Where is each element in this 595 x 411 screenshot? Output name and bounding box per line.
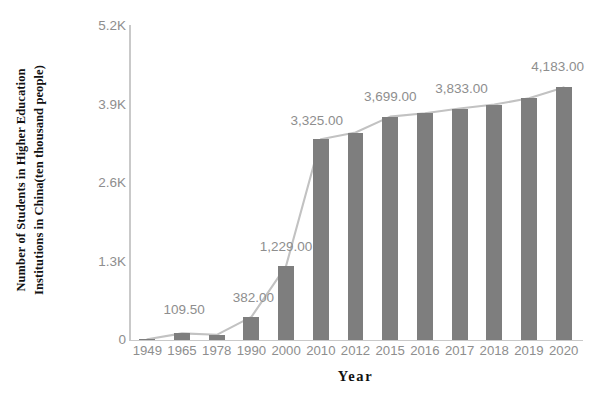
bar-2000 [278, 266, 294, 340]
x-tick-2000: 2000 [271, 344, 300, 357]
bar-1978 [209, 335, 225, 340]
y-axis-title-line-1: Number of Students in Higher Education [14, 68, 29, 291]
y-tick-0: 0 [80, 333, 126, 347]
bar-2015 [382, 117, 398, 340]
bar-1990 [243, 317, 259, 340]
bar-2016 [417, 113, 433, 340]
x-axis-line [130, 340, 583, 341]
data-label-2015: 3,699.00 [364, 90, 417, 104]
x-tick-2017: 2017 [445, 344, 474, 357]
x-tick-2019: 2019 [514, 344, 543, 357]
x-tick-2020: 2020 [549, 344, 578, 357]
chart-figure: Number of Students in Higher Education I… [0, 0, 595, 411]
data-label-1965: 109.50 [163, 303, 204, 317]
x-tick-2015: 2015 [376, 344, 405, 357]
x-tick-1990: 1990 [237, 344, 266, 357]
y-tick-1.3K: 1.3K [80, 255, 126, 269]
x-tick-2016: 2016 [410, 344, 439, 357]
x-tick-1949: 1949 [133, 344, 162, 357]
data-label-2020: 4,183.00 [531, 60, 584, 74]
data-label-2017: 3,833.00 [435, 82, 488, 96]
x-tick-1965: 1965 [167, 344, 196, 357]
y-tick-2.6K: 2.6K [80, 176, 126, 190]
bar-1949 [139, 339, 155, 340]
bar-2019 [521, 98, 537, 340]
data-label-2000: 1,229.00 [260, 240, 313, 254]
y-axis-title-line-2: Institutions in China(ten thousand peopl… [32, 65, 47, 295]
data-label-2010: 3,325.00 [291, 114, 344, 128]
data-label-1990: 382.00 [233, 291, 274, 305]
y-axis-title: Number of Students in Higher Education I… [0, 0, 60, 360]
bar-2017 [452, 109, 468, 340]
bar-2010 [313, 139, 329, 340]
x-tick-2012: 2012 [341, 344, 370, 357]
plot-area: 109.50382.001,229.003,325.003,699.003,83… [130, 26, 581, 340]
bar-1965 [174, 333, 190, 340]
x-axis-title: Year [130, 368, 581, 385]
bar-2018 [486, 105, 502, 341]
x-axis-tick-labels: 1949196519781990200020102012201520162017… [130, 344, 581, 364]
y-axis-tick-labels: 01.3K2.6K3.9K5.2K [78, 0, 126, 360]
bar-2012 [348, 133, 364, 340]
x-tick-1978: 1978 [202, 344, 231, 357]
bar-2020 [556, 87, 572, 340]
x-tick-2018: 2018 [480, 344, 509, 357]
y-tick-5.2K: 5.2K [80, 19, 126, 33]
x-tick-2010: 2010 [306, 344, 335, 357]
y-tick-3.9K: 3.9K [80, 98, 126, 112]
